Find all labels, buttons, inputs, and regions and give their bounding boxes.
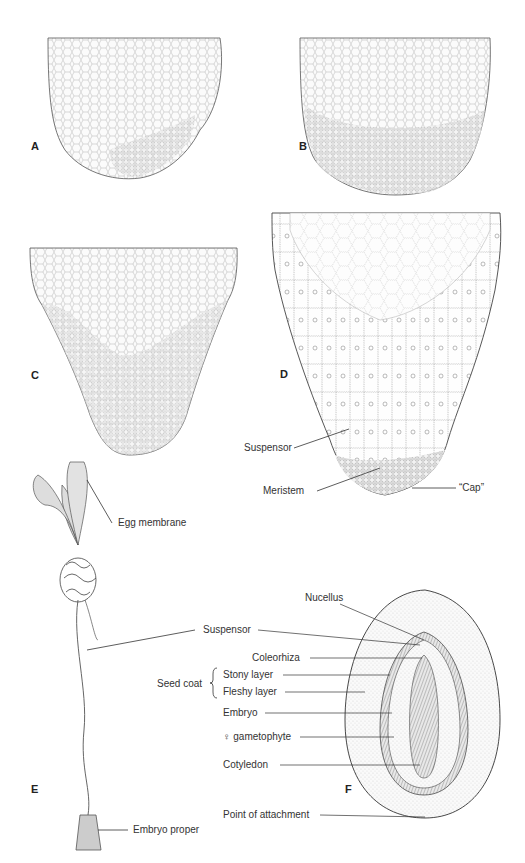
label-fleshy-layer: Fleshy layer	[223, 686, 277, 697]
panel-d-drawing	[272, 213, 501, 495]
label-embryo: Embryo	[223, 707, 257, 718]
label-suspensor-d: Suspensor	[244, 442, 292, 453]
panel-c-drawing	[30, 248, 237, 455]
label-embryo-proper: Embryo proper	[133, 824, 199, 835]
label-seed-coat: Seed coat	[157, 678, 202, 689]
panel-letter-f: F	[345, 783, 352, 795]
label-cotyledon: Cotyledon	[223, 759, 268, 770]
panel-letter-c: C	[31, 369, 39, 381]
label-egg-membrane: Egg membrane	[118, 517, 186, 528]
panel-letter-b: B	[299, 140, 307, 152]
label-nucellus: Nucellus	[305, 592, 343, 603]
label-coleorhiza: Coleorhiza	[252, 652, 300, 663]
panel-f-drawing	[210, 590, 500, 818]
panel-letter-a: A	[31, 140, 39, 152]
panel-b-drawing	[300, 38, 490, 195]
panel-letter-d: D	[280, 368, 288, 380]
label-stony-layer: Stony layer	[223, 669, 273, 680]
label-cap: “Cap”	[459, 482, 484, 493]
label-meristem: Meristem	[263, 485, 304, 496]
label-suspensor-ef: Suspensor	[203, 624, 251, 635]
panel-a-drawing	[48, 38, 222, 179]
label-female-gametophyte: ♀ gametophyte	[223, 731, 291, 742]
panel-letter-e: E	[31, 783, 38, 795]
label-point-of-attachment: Point of attachment	[223, 809, 309, 820]
